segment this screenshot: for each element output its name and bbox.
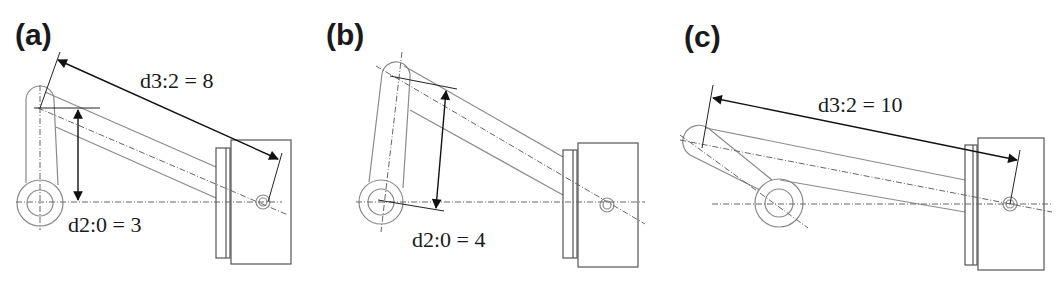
- panel-c-label: (c): [684, 20, 721, 53]
- crank-slider-figure: (a) d3:2 = 8: [0, 0, 1063, 285]
- crank-c: [683, 125, 803, 227]
- dimension-label: d3:2 = 8: [140, 68, 214, 93]
- dimension-label: d3:2 = 10: [818, 92, 903, 117]
- panel-c: (c) d3:2 = 10: [680, 20, 1052, 270]
- dimension-d3-2-a: d3:2 = 8: [40, 52, 282, 202]
- panel-a-label: (a): [15, 18, 52, 51]
- dimension-label: d2:0 = 4: [412, 227, 486, 252]
- dimension-d2-0-b: d2:0 = 4: [378, 76, 486, 252]
- panel-a: (a) d3:2 = 8: [15, 18, 291, 264]
- dimension-label: d2:0 = 3: [68, 212, 142, 237]
- panel-b-label: (b): [326, 18, 364, 51]
- connecting-rod-b: [404, 66, 563, 195]
- piston-b: [563, 143, 638, 267]
- panel-b: (b) d2:0 = 4: [326, 18, 645, 267]
